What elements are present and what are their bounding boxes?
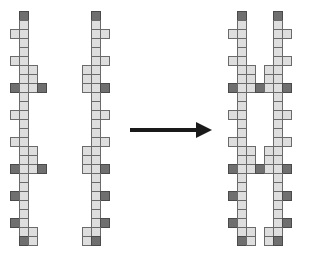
light-monomer-cell: [100, 56, 110, 66]
diagram-canvas: [0, 0, 309, 269]
dark-monomer-cell: [273, 236, 283, 246]
light-monomer-cell: [100, 137, 110, 147]
dark-monomer-cell: [91, 236, 101, 246]
dark-monomer-cell: [37, 164, 47, 174]
dark-monomer-cell: [100, 83, 110, 93]
dark-monomer-cell: [37, 83, 47, 93]
arrow-head-icon: [196, 122, 212, 138]
light-monomer-cell: [100, 110, 110, 120]
light-monomer-cell: [282, 29, 292, 39]
light-monomer-cell: [100, 29, 110, 39]
dark-monomer-cell: [282, 218, 292, 228]
light-monomer-cell: [282, 137, 292, 147]
dark-monomer-cell: [100, 191, 110, 201]
light-monomer-cell: [282, 110, 292, 120]
light-monomer-cell: [282, 56, 292, 66]
dark-monomer-cell: [282, 83, 292, 93]
light-monomer-cell: [28, 236, 38, 246]
light-monomer-cell: [246, 236, 256, 246]
dark-monomer-cell: [100, 164, 110, 174]
dark-monomer-cell: [282, 164, 292, 174]
arrow-shaft: [130, 128, 200, 132]
dark-monomer-cell: [100, 218, 110, 228]
dark-monomer-cell: [282, 191, 292, 201]
